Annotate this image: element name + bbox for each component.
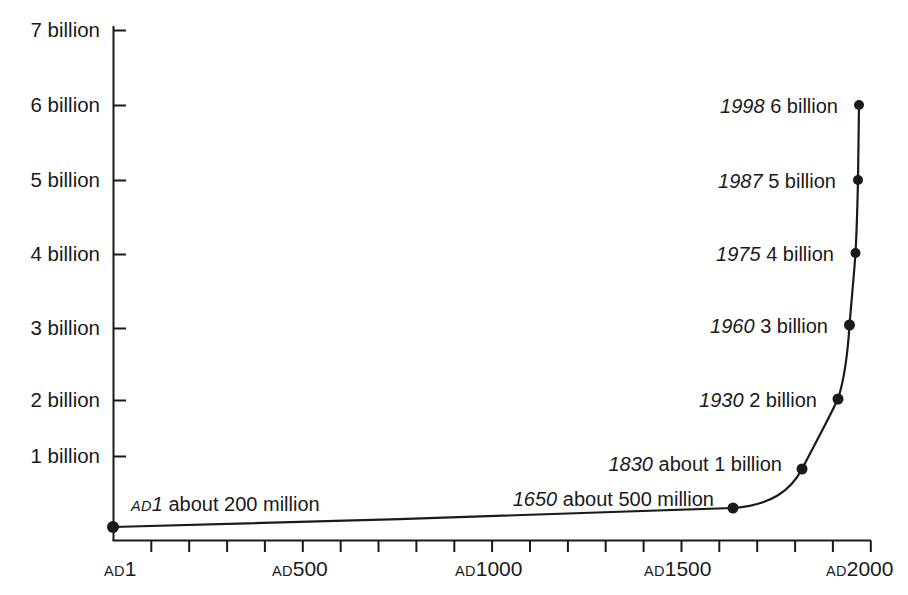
x-axis-label-ad1000: AD1000 <box>455 558 522 579</box>
x-axis-label-ad2000-value: 2000 <box>847 557 894 580</box>
annotation-1975-year: 1975 <box>716 243 761 265</box>
y-axis-label-6: 6 billion <box>0 95 100 116</box>
annotation-1987: 1987 5 billion <box>718 171 836 191</box>
annotation-ad1-text: about 200 million <box>168 493 319 515</box>
annotation-1930-text: 2 billion <box>749 389 817 411</box>
annotation-1650-text: about 500 million <box>563 488 714 510</box>
annotation-ad1-year: 1 <box>152 493 163 515</box>
annotation-1998: 1998 6 billion <box>720 96 838 116</box>
x-axis-label-ad1000-value: 1000 <box>476 557 523 580</box>
data-point-1650 <box>728 503 739 514</box>
y-axis-label-7: 7 billion <box>0 20 100 41</box>
data-point-1960 <box>844 320 855 331</box>
annotation-1830: 1830 about 1 billion <box>609 454 783 474</box>
annotation-1987-year: 1987 <box>718 170 763 192</box>
x-axis-label-ad2000: AD2000 <box>826 558 893 579</box>
y-axis-label-5: 5 billion <box>0 170 100 191</box>
x-axis-label-ad1500-value: 1500 <box>665 557 712 580</box>
annotation-1998-year: 1998 <box>720 95 765 117</box>
annotation-1960-text: 3 billion <box>760 315 828 337</box>
annotation-1987-text: 5 billion <box>768 170 836 192</box>
annotation-1930: 1930 2 billion <box>699 390 817 410</box>
annotation-1960-year: 1960 <box>710 315 755 337</box>
annotation-ad1: AD1 about 200 million <box>131 494 320 514</box>
ad-prefix: AD <box>272 563 293 579</box>
ad-prefix: AD <box>826 563 847 579</box>
annotation-1975: 1975 4 billion <box>716 244 834 264</box>
annotation-1650-year: 1650 <box>513 488 558 510</box>
annotation-1975-text: 4 billion <box>766 243 834 265</box>
annotation-1960: 1960 3 billion <box>710 316 828 336</box>
x-axis-label-ad500-value: 500 <box>293 557 328 580</box>
annotation-1930-year: 1930 <box>699 389 744 411</box>
annotation-1830-text: about 1 billion <box>659 453 782 475</box>
y-axis-label-3: 3 billion <box>0 318 100 339</box>
x-axis-label-ad1500: AD1500 <box>644 558 711 579</box>
x-axis-label-ad1: AD1 <box>104 558 136 579</box>
population-growth-chart: 7 billion 6 billion 5 billion 4 billion … <box>0 0 908 595</box>
y-axis-label-1: 1 billion <box>0 446 100 467</box>
annotation-1998-text: 6 billion <box>770 95 838 117</box>
data-point-ad1 <box>107 521 119 533</box>
ad-prefix: AD <box>104 563 125 579</box>
data-point-1987 <box>853 175 863 185</box>
ad-prefix: AD <box>644 563 665 579</box>
data-point-1930 <box>833 394 844 405</box>
data-point-1998 <box>854 100 864 110</box>
annotation-1650: 1650 about 500 million <box>513 489 714 509</box>
x-axis-ticks <box>151 541 871 553</box>
y-axis-label-2: 2 billion <box>0 390 100 411</box>
ad-prefix: AD <box>131 498 152 514</box>
y-axis-label-4: 4 billion <box>0 244 100 265</box>
x-axis-label-ad500: AD500 <box>272 558 328 579</box>
data-point-1830 <box>797 464 808 475</box>
annotation-1830-year: 1830 <box>609 453 654 475</box>
x-axis-label-ad1-value: 1 <box>125 557 137 580</box>
ad-prefix: AD <box>455 563 476 579</box>
y-axis-ticks <box>114 31 127 457</box>
data-point-1975 <box>851 248 861 258</box>
